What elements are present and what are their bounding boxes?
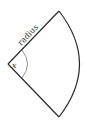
sector-diagram: x radius — [0, 0, 85, 127]
outer-arc — [59, 11, 80, 117]
angle-label: x — [12, 61, 17, 70]
sector-shape — [8, 11, 80, 117]
top-radius-line — [8, 11, 59, 64]
bottom-radius-line — [8, 64, 59, 117]
angle-arc — [22, 50, 28, 78]
